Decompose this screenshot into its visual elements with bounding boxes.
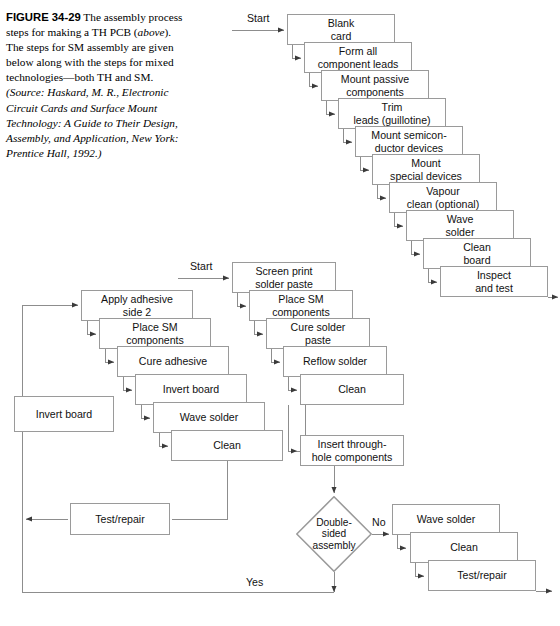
process-box-trim-leads-guillotine[interactable]: Trim leads (guillotine) bbox=[338, 98, 446, 129]
process-box-label: Invert board bbox=[163, 383, 220, 395]
arrow-sm-3 bbox=[123, 377, 132, 390]
label-start-sm: Start bbox=[190, 260, 212, 272]
process-box-invert-board-chain[interactable]: Invert board bbox=[135, 374, 247, 405]
process-box-label: Inspect and test bbox=[475, 269, 513, 294]
process-box-label: Mount special devices bbox=[390, 157, 462, 182]
process-box-test-repair-left[interactable]: Test/repair bbox=[70, 503, 170, 535]
process-box-label: Clean bbox=[213, 439, 241, 451]
process-box-label: Trim leads (guillotine) bbox=[353, 101, 430, 126]
line-clean-to-testrepair bbox=[172, 461, 227, 519]
process-box-mount-passive-components[interactable]: Mount passive components bbox=[321, 70, 429, 101]
process-box-label: Form all component leads bbox=[318, 45, 399, 70]
arrow-sm-1 bbox=[87, 321, 96, 334]
label-no: No bbox=[372, 516, 386, 528]
process-box-reflow-solder[interactable]: Reflow solder bbox=[283, 346, 387, 377]
process-box-label: Apply adhesive side 2 bbox=[101, 293, 173, 318]
arrow-mid-5 bbox=[288, 405, 297, 451]
arrow-no-1 bbox=[397, 535, 406, 548]
process-box-label: Place SM components bbox=[272, 293, 330, 318]
process-box-mount-semiconductor-devices[interactable]: Mount semicon- ductor devices bbox=[355, 126, 463, 157]
process-box-vapour-clean-optional[interactable]: Vapour clean (optional) bbox=[389, 182, 497, 213]
process-box-label: Clean bbox=[338, 383, 366, 395]
process-box-label: Clean board bbox=[463, 241, 491, 266]
arrow-sm-4 bbox=[141, 405, 150, 418]
arrow-th-6 bbox=[377, 185, 386, 198]
process-box-label: Mount semicon- ductor devices bbox=[371, 129, 446, 154]
arrow-th-3 bbox=[326, 101, 335, 114]
label-yes: Yes bbox=[246, 576, 263, 588]
arrow-mid-4 bbox=[288, 377, 297, 390]
process-box-label: Cure solder paste bbox=[291, 321, 346, 346]
process-box-label: Clean bbox=[450, 541, 478, 553]
arrow-th-8 bbox=[411, 241, 420, 254]
process-box-label: Screen print solder paste bbox=[255, 265, 313, 290]
arrow-sm-2 bbox=[105, 349, 114, 362]
process-box-place-sm-components-left[interactable]: Place SM components bbox=[99, 318, 211, 349]
process-box-mount-special-devices[interactable]: Mount special devices bbox=[372, 154, 480, 185]
process-box-label: Vapour clean (optional) bbox=[407, 185, 479, 210]
process-box-inspect-and-test[interactable]: Inspect and test bbox=[440, 266, 548, 297]
arrow-th-1 bbox=[292, 45, 301, 58]
process-box-invert-board-left[interactable]: Invert board bbox=[14, 396, 114, 432]
process-box-cure-adhesive[interactable]: Cure adhesive bbox=[117, 346, 229, 377]
process-box-label: Test/repair bbox=[457, 569, 506, 581]
process-box-label: Wave solder bbox=[180, 411, 238, 423]
process-box-blank-card[interactable]: Blank card bbox=[287, 14, 395, 45]
arrow-mid-1 bbox=[237, 293, 246, 306]
process-box-wave-solder-th[interactable]: Wave solder bbox=[406, 210, 514, 241]
process-box-label: Invert board bbox=[36, 408, 93, 420]
process-box-label: Blank card bbox=[328, 17, 355, 42]
process-box-label: Place SM components bbox=[126, 321, 184, 346]
arrow-th-7 bbox=[394, 213, 403, 226]
figure-canvas: FIGURE 34-29 The assembly process steps … bbox=[0, 0, 560, 626]
process-box-apply-adhesive-side-2[interactable]: Apply adhesive side 2 bbox=[81, 290, 193, 321]
decision-label: Double- sided assembly bbox=[312, 517, 355, 551]
process-box-label: Mount passive components bbox=[341, 73, 409, 98]
label-start-th: Start bbox=[247, 12, 269, 24]
process-box-label: Reflow solder bbox=[303, 355, 367, 367]
arrow-mid-3 bbox=[271, 349, 280, 362]
process-box-insert-through-hole-components[interactable]: Insert through- hole components bbox=[300, 435, 404, 466]
process-box-label: Cure adhesive bbox=[139, 355, 207, 367]
arrow-mid-2 bbox=[254, 321, 263, 334]
decision-double-sided-assembly[interactable]: Double- sided assembly bbox=[296, 496, 372, 572]
process-box-label: Wave solder bbox=[446, 213, 475, 238]
process-box-place-sm-components-mid[interactable]: Place SM components bbox=[249, 290, 353, 321]
arrow-th-2 bbox=[309, 73, 318, 86]
process-box-label: Wave solder bbox=[417, 513, 475, 525]
process-box-cure-solder-paste[interactable]: Cure solder paste bbox=[266, 318, 370, 349]
arrow-th-9 bbox=[428, 269, 437, 282]
process-box-clean-sm[interactable]: Clean bbox=[171, 430, 283, 461]
process-box-wave-solder-sm[interactable]: Wave solder bbox=[153, 402, 265, 433]
arrow-no-2 bbox=[415, 563, 424, 576]
process-box-label: Insert through- hole components bbox=[312, 438, 393, 463]
arrow-th-4 bbox=[343, 129, 352, 142]
process-box-screen-print-solder-paste[interactable]: Screen print solder paste bbox=[232, 262, 336, 293]
arrow-sm-5 bbox=[159, 433, 168, 446]
process-box-wave-solder-no[interactable]: Wave solder bbox=[392, 504, 500, 535]
process-box-clean-no[interactable]: Clean bbox=[410, 532, 518, 563]
arrow-th-5 bbox=[360, 157, 369, 170]
process-box-label: Test/repair bbox=[95, 513, 144, 525]
process-box-form-all-component-leads[interactable]: Form all component leads bbox=[304, 42, 412, 73]
process-box-test-repair-no[interactable]: Test/repair bbox=[428, 560, 536, 591]
process-box-clean-mid[interactable]: Clean bbox=[300, 374, 404, 405]
process-box-clean-board[interactable]: Clean board bbox=[423, 238, 531, 269]
